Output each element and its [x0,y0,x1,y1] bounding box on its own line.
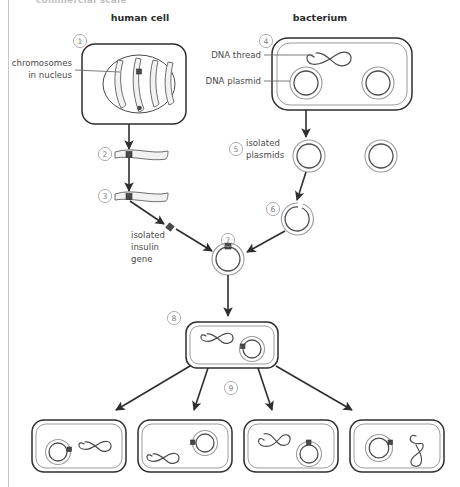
insulin-gene-marker-in-transformed-plasmid [241,344,246,349]
step-1-number: 1 [78,37,83,46]
step-7-number: 7 [226,236,231,245]
offspring-1-gene-marker [67,447,72,452]
extracted-chromosome [115,150,168,160]
opened-plasmid-inner-ring [285,207,309,231]
recombinant-plasmid-inner-ring [216,247,240,271]
recombinant-plasmid [212,243,244,275]
step-2-number: 2 [103,150,108,159]
offspring-2-gene-marker [191,440,196,445]
step-9-number: 9 [229,384,234,393]
bacterium [272,38,412,110]
dna-thread-label: DNA thread [211,50,261,60]
arrow-to-offspring-cell-2 [194,368,208,410]
step-badge-8: 8 [167,311,180,324]
offspring-cell-3-wall [244,420,338,472]
step-4-number: 4 [264,37,269,46]
label-isolated-plasmids: isolated plasmids [246,138,285,160]
arrow-to-offspring-cell-4 [276,366,352,410]
genetic-engineering-diagram: commercial scale human cell bacterium 1 [0,0,460,487]
diagram-canvas: human cell bacterium 1 chromosomes in nu… [0,0,460,487]
isolated-plasmids-label-line-1: isolated [246,138,280,148]
arrow-isolated-plasmid-to-opened-plasmid [297,172,306,200]
header-human-cell: human cell [111,12,170,23]
transformed-bacterium [186,322,278,368]
arrow-to-offspring-cell-1 [116,366,190,410]
chromosome-cut-shape [115,192,168,202]
step-badge-4: 4 [259,34,272,47]
isolated-gene-label-line-1: isolated [131,230,165,240]
isolated-plasmid-b [365,140,397,172]
offspring-cell-2-wall [138,420,232,472]
chromosomes-label-line-2: in nucleus [28,70,72,80]
offspring-cell-4 [350,420,444,472]
step-badge-5: 5 [229,142,242,155]
insulin-gene-marker-step-2 [126,152,132,158]
arrow-to-offspring-cell-3 [258,368,272,410]
step-5-number: 5 [234,145,239,154]
isolated-insulin-gene-marker [166,223,174,231]
chromosome-extracted-shape [115,150,168,160]
dna-plasmid-label: DNA plasmid [206,76,261,86]
arrow-isolated-gene-to-recombinant-plasmid [176,229,212,251]
offspring-cell-3 [244,420,338,472]
offspring-cell-2 [138,420,232,472]
cut-off-caption: commercial scale [36,0,127,5]
insulin-gene-marker-step-3 [126,194,132,200]
step-badge-6: 6 [266,202,279,215]
opened-plasmid [281,203,313,235]
isolated-gene-label-line-3: gene [131,254,152,264]
offspring-cell-4-wall [350,420,444,472]
step-3-number: 3 [103,192,108,201]
step-badge-1: 1 [73,34,86,47]
label-isolated-insulin-gene: isolated insulin gene [131,230,165,264]
step-8-number: 8 [172,314,177,323]
step-badge-2: 2 [98,147,111,160]
step-6-number: 6 [271,205,276,214]
offspring-4-gene-marker [388,440,393,445]
isolated-gene-label-line-2: insulin [131,242,159,252]
isolated-plasmid-b-inner-ring [369,144,393,168]
isolated-plasmid-b-outer-ring [365,140,397,172]
chromosomes-label-line-1: chromosomes [12,58,73,68]
human-cell [82,44,186,124]
isolated-plasmids-label-line-2: plasmids [246,150,285,160]
offspring-3-gene-marker [307,440,312,445]
isolated-plasmid-a [293,140,325,172]
step-badge-9: 9 [224,381,237,394]
arrow-step-3-to-isolated-gene [130,201,164,224]
chromosome-anchor-dot [137,106,142,111]
isolated-plasmid-a-outer-ring [293,140,325,172]
step-badge-3: 3 [98,189,111,202]
cut-chromosome [115,192,168,202]
arrow-opened-plasmid-to-recombinant [247,231,285,252]
header-bacterium: bacterium [293,12,348,23]
offspring-cell-1 [32,420,126,472]
isolated-plasmid-a-inner-ring [297,144,321,168]
insulin-gene-marker-in-chromosome [137,69,142,74]
